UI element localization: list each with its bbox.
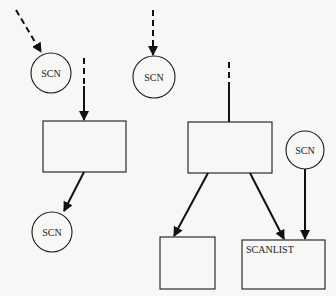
- scn-label: SCN: [42, 227, 61, 238]
- box-node-3: [160, 237, 215, 289]
- box-node-1: [43, 121, 126, 172]
- scn-node-2: SCN: [133, 56, 175, 98]
- scanlist-node: SCANLIST: [242, 240, 325, 289]
- incoming-edge-scn1: [16, 10, 41, 52]
- scanlist-label: SCANLIST: [246, 244, 294, 255]
- scn-label: SCN: [144, 72, 163, 83]
- scn-node-4: SCN: [32, 212, 72, 252]
- scn-node-3: SCN: [286, 131, 324, 169]
- scn-label: SCN: [41, 68, 60, 79]
- edge-box2-to-scanlist: [250, 173, 284, 239]
- box-node-2: [188, 122, 272, 173]
- scn-label: SCN: [295, 145, 314, 156]
- edge-box1-to-scn4: [64, 172, 84, 211]
- edge-box2-to-box3: [174, 173, 208, 236]
- diagram-canvas: SCN SCN SCN SCN SCANLIST: [0, 0, 336, 296]
- scn-node-1: SCN: [31, 53, 71, 93]
